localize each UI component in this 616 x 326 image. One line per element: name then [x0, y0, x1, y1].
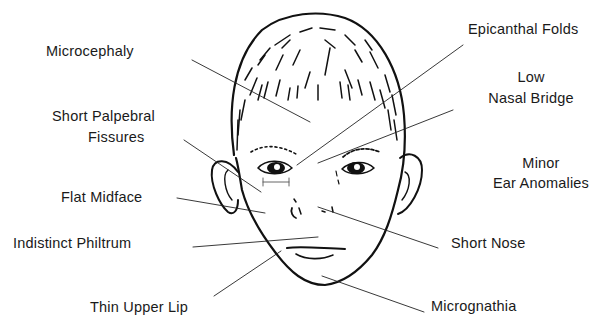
- right-ear: [398, 154, 422, 214]
- label-microcephaly: Microcephaly: [46, 42, 134, 61]
- left-ear: [212, 161, 238, 213]
- label-minor-ear-line2: Ear Anomalies: [466, 174, 616, 193]
- label-epicanthal-folds: Epicanthal Folds: [468, 20, 578, 39]
- facial-features-diagram: Microcephaly Epicanthal Folds Low Nasal …: [0, 0, 616, 326]
- label-thin-upper-lip: Thin Upper Lip: [90, 298, 188, 317]
- mouth: [287, 247, 345, 249]
- label-short-palpebral-line2: Fissures: [88, 128, 144, 147]
- hair-strands: [237, 28, 397, 150]
- label-short-palpebral-line1: Short Palpebral: [52, 107, 155, 126]
- label-micrognathia: Micrognathia: [431, 297, 516, 316]
- label-minor-ear-line1: Minor: [466, 154, 616, 173]
- label-low-nasal-bridge-line2: Nasal Bridge: [466, 89, 596, 108]
- label-low-nasal-bridge-line1: Low: [466, 68, 596, 87]
- label-short-nose: Short Nose: [451, 234, 526, 253]
- leader-lines: [177, 45, 463, 312]
- label-indistinct-philtrum: Indistinct Philtrum: [13, 234, 131, 253]
- label-flat-midface: Flat Midface: [61, 188, 142, 207]
